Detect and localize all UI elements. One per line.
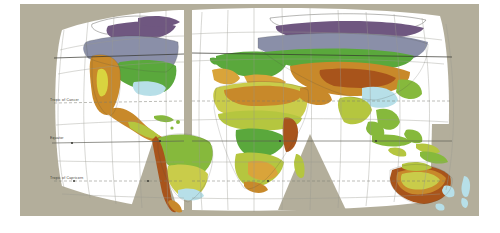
label-tropic-of-capricorn: Tropic of Capricorn (50, 176, 83, 180)
label-tropic-of-cancer: Tropic of Cancer (50, 98, 79, 102)
world-map-graphic (20, 4, 479, 216)
map-frame: Tropic of Cancer Equator Tropic of Capri… (20, 4, 479, 216)
label-equator: Equator (50, 136, 64, 140)
world-climate-map-image: Tropic of Cancer Equator Tropic of Capri… (0, 0, 500, 233)
